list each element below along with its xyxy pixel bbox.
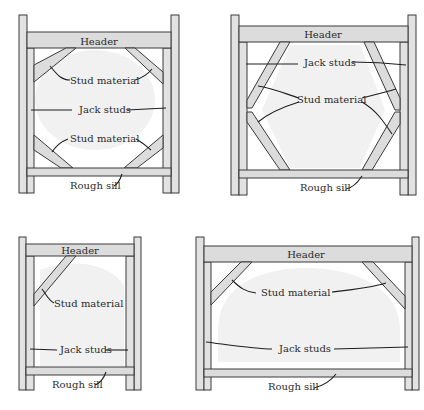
label-rough-sill: Rough sill	[70, 180, 121, 191]
panel-top-right: Header Jack studs Stud material Rough si…	[231, 15, 416, 195]
king-stud-right	[412, 237, 419, 390]
label-stud-material: Stud material	[54, 298, 123, 309]
label-stud-material-bottom: Stud material	[70, 133, 139, 144]
panel-top-left: Header Stud material Jack studs Stud mat…	[19, 15, 179, 193]
rough-sill	[204, 369, 412, 377]
label-header: Header	[61, 245, 99, 256]
label-stud-material: Stud material	[261, 287, 330, 298]
king-stud-left	[19, 15, 27, 193]
label-rough-sill: Rough sill	[300, 182, 351, 193]
king-stud-left	[196, 237, 204, 390]
panel-bottom-right: Header Stud material Jack studs Rough si…	[196, 237, 419, 392]
king-stud-right	[134, 237, 141, 390]
rough-sill	[27, 168, 171, 176]
king-stud-left	[231, 15, 239, 195]
label-jack-studs: Jack studs	[278, 343, 331, 354]
king-stud-right	[408, 15, 416, 195]
label-rough-sill: Rough sill	[268, 381, 319, 392]
rough-sill	[239, 170, 408, 178]
label-header: Header	[80, 36, 118, 47]
label-rough-sill: Rough sill	[52, 379, 103, 390]
label-jack-studs: Jack studs	[78, 104, 131, 115]
label-stud-material-top: Stud material	[70, 75, 139, 86]
label-header: Header	[287, 249, 325, 260]
king-stud-left	[19, 237, 26, 390]
rough-sill	[26, 367, 134, 375]
label-header: Header	[304, 29, 342, 40]
label-stud-material: Stud material	[297, 94, 366, 105]
label-jack-studs: Jack studs	[59, 344, 112, 355]
king-stud-right	[171, 15, 179, 193]
framing-diagram: Header Stud material Jack studs Stud mat…	[0, 0, 424, 410]
label-jack-studs: Jack studs	[303, 57, 356, 68]
panel-bottom-left: Header Stud material Jack studs Rough si…	[19, 237, 141, 390]
